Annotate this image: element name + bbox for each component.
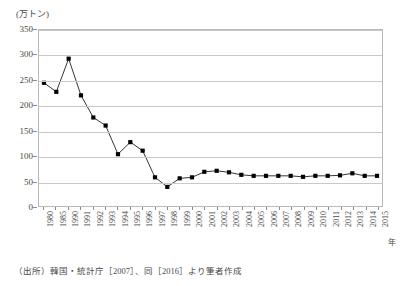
x-axis-unit-label: 年 <box>388 236 396 247</box>
x-tick-mark <box>192 207 193 210</box>
x-tick-label: 1980 <box>46 211 55 227</box>
data-point-marker: 1990: 293 <box>67 57 71 61</box>
x-tick-mark <box>378 207 379 210</box>
x-tick-mark <box>304 207 305 210</box>
data-point-marker: 1998: 38 <box>165 185 169 189</box>
x-tick-mark <box>204 207 205 210</box>
x-tick-label: 1996 <box>145 211 154 227</box>
data-point-marker: 1999: 55 <box>178 176 182 180</box>
x-tick-mark <box>316 207 317 210</box>
plot-area: 1980: 2451985: 2271990: 2931991: 2201992… <box>38 29 383 207</box>
x-tick-mark <box>155 207 156 210</box>
data-point-marker: 2014: 60 <box>363 174 367 178</box>
data-point-marker: 2013: 65 <box>350 171 354 175</box>
x-tick-label: 1997 <box>158 211 167 227</box>
y-tick-mark <box>33 105 37 106</box>
y-axis-tick-marks <box>0 29 40 207</box>
data-point-marker: 2010: 60 <box>313 174 317 178</box>
x-tick-label: 1995 <box>133 211 142 227</box>
x-tick-label: 2007 <box>282 211 291 227</box>
y-tick-mark <box>33 207 37 208</box>
x-tick-label: 2004 <box>245 211 254 227</box>
x-tick-label: 2001 <box>208 211 217 227</box>
x-tick-mark <box>353 207 354 210</box>
x-tick-mark <box>167 207 168 210</box>
data-point-marker: 2002: 70 <box>215 169 219 173</box>
x-tick-mark <box>291 207 292 210</box>
gridline <box>39 55 382 56</box>
data-point-marker: 2007: 60 <box>276 174 280 178</box>
x-tick-label: 2011 <box>332 211 341 227</box>
x-tick-mark <box>179 207 180 210</box>
x-tick-mark <box>142 207 143 210</box>
y-tick-mark <box>33 80 37 81</box>
data-point-marker: 2015: 60 <box>375 174 379 178</box>
x-tick-mark <box>43 207 44 210</box>
y-tick-mark <box>33 131 37 132</box>
gridline <box>39 81 382 82</box>
data-point-marker: 1985: 227 <box>54 90 58 94</box>
y-tick-mark <box>33 156 37 157</box>
x-tick-mark <box>254 207 255 210</box>
gridline <box>39 106 382 107</box>
x-tick-label: 1999 <box>183 211 192 227</box>
data-point-marker: 2011: 60 <box>326 174 330 178</box>
series-markers: 1980: 2451985: 2271990: 2931991: 2201992… <box>42 57 379 189</box>
x-tick-mark <box>93 207 94 210</box>
data-point-marker: 2006: 60 <box>264 174 268 178</box>
x-tick-label: 1990 <box>71 211 80 227</box>
data-point-marker: 1991: 220 <box>79 93 83 97</box>
x-tick-mark <box>266 207 267 210</box>
data-point-marker: 2009: 58 <box>301 175 305 179</box>
source-caption: （出所）韓国・統計庁［2007］、同［2016］より筆者作成 <box>14 264 242 276</box>
x-tick-label: 1992 <box>96 211 105 227</box>
data-point-marker: 2005: 60 <box>252 174 256 178</box>
data-point-marker: 1992: 176 <box>91 115 95 119</box>
x-tick-label: 1993 <box>108 211 117 227</box>
x-tick-mark <box>328 207 329 210</box>
chart-figure: (万トン) 050100150200250300350 1980: 245198… <box>0 0 412 286</box>
data-point-marker: 2001: 68 <box>202 170 206 174</box>
y-tick-mark <box>33 182 37 183</box>
x-tick-label: 2015 <box>381 211 390 227</box>
data-point-marker: 1994: 103 <box>116 152 120 156</box>
x-tick-label: 2008 <box>294 211 303 227</box>
data-point-marker: 2008: 60 <box>289 174 293 178</box>
gridline <box>39 183 382 184</box>
data-point-marker: 2003: 67 <box>227 170 231 174</box>
data-point-marker: 2000: 57 <box>190 175 194 179</box>
x-tick-label: 2002 <box>220 211 229 227</box>
x-tick-label: 2012 <box>344 211 353 227</box>
x-tick-mark <box>130 207 131 210</box>
x-tick-label: 2013 <box>356 211 365 227</box>
x-tick-mark <box>68 207 69 210</box>
x-tick-mark <box>229 207 230 210</box>
data-point-marker: 1996: 110 <box>141 149 145 153</box>
data-point-marker: 2004: 62 <box>239 173 243 177</box>
data-point-marker: 1993: 160 <box>104 123 108 127</box>
data-point-marker: 2012: 61 <box>338 173 342 177</box>
x-tick-label: 2014 <box>369 211 378 227</box>
x-tick-label: 2003 <box>232 211 241 227</box>
gridline <box>39 157 382 158</box>
x-tick-mark <box>55 207 56 210</box>
data-point-marker: 1997: 57 <box>153 175 157 179</box>
x-tick-mark <box>80 207 81 210</box>
x-tick-mark <box>279 207 280 210</box>
y-axis-unit-label: (万トン) <box>16 7 49 20</box>
data-point-marker: 1995: 127 <box>128 140 132 144</box>
x-tick-mark <box>242 207 243 210</box>
x-tick-label: 2010 <box>319 211 328 227</box>
x-tick-label: 2006 <box>270 211 279 227</box>
gridline <box>39 132 382 133</box>
y-tick-mark <box>33 54 37 55</box>
x-tick-label: 1998 <box>170 211 179 227</box>
series-line <box>44 59 377 187</box>
y-tick-mark <box>33 29 37 30</box>
x-tick-mark <box>117 207 118 210</box>
x-tick-label: 1991 <box>83 211 92 227</box>
x-axis-tick-labels: 1980198519901991199219931994199519961997… <box>38 211 383 257</box>
x-tick-label: 2000 <box>195 211 204 227</box>
x-tick-mark <box>105 207 106 210</box>
x-tick-label: 1985 <box>59 211 68 227</box>
